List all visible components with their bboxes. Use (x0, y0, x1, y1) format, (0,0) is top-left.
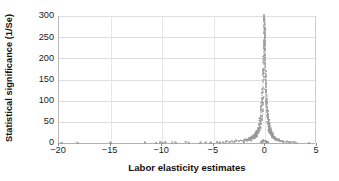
x-tick-label--15: −15 (90, 146, 130, 155)
gridline-x--10 (162, 16, 163, 143)
gridline-y-50 (59, 122, 315, 123)
x-tick-label--10: −10 (141, 146, 181, 155)
plot-area (58, 16, 316, 143)
gridline-y-0 (59, 143, 315, 144)
x-axis-title: Labor elasticity estimates (58, 162, 316, 173)
gridline-y-300 (59, 16, 315, 17)
y-tick-label-250: 250 (14, 33, 54, 42)
x-tick-label--20: −20 (38, 146, 78, 155)
y-tick-label-50: 50 (14, 117, 54, 126)
x-tick-label--5: −5 (193, 146, 233, 155)
y-tick-label-100: 100 (14, 96, 54, 105)
funnel-plot-figure: Statistical significance (1/Se) 05010015… (0, 0, 339, 181)
gridline-x--15 (111, 16, 112, 143)
y-tick-label-150: 150 (14, 75, 54, 84)
gridline-x-0 (265, 16, 266, 143)
y-tick-label-300: 300 (14, 11, 54, 20)
y-tick-label-200: 200 (14, 54, 54, 63)
x-tick-label-0: 0 (244, 146, 284, 155)
gridline-x--5 (214, 16, 215, 143)
gridline-y-200 (59, 58, 315, 59)
gridline-y-250 (59, 37, 315, 38)
gridline-y-100 (59, 101, 315, 102)
y-axis-title-text: Statistical significance (1/Se) (4, 14, 14, 142)
gridline-y-150 (59, 80, 315, 81)
x-tick-label-5: 5 (296, 146, 336, 155)
